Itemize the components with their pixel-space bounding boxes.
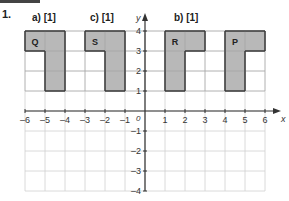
shape-label: P (232, 37, 238, 47)
y-axis-label: y (135, 13, 141, 23)
x-tick-label: –4 (60, 115, 70, 125)
y-tick-label: –1 (131, 126, 141, 136)
x-tick-label: –3 (80, 115, 90, 125)
x-tick-label: 6 (262, 115, 267, 125)
y-tick-label: –4 (131, 186, 141, 196)
y-tick-label: –3 (131, 166, 141, 176)
x-axis-label: x (280, 114, 286, 124)
x-tick-label: –6 (20, 115, 30, 125)
x-tick-label: –1 (120, 115, 130, 125)
shape-label: Q (31, 37, 38, 47)
y-tick-label: 1 (136, 86, 141, 96)
x-tick-label: –2 (100, 115, 110, 125)
y-tick-label: 3 (136, 46, 141, 56)
shape-label: S (92, 37, 98, 47)
x-axis-arrow-icon (273, 108, 281, 114)
coordinate-grid: QSRPxy0–6–5–4–3–2–11234564321–1–2–3–4 (0, 0, 289, 201)
y-tick-label: 4 (136, 26, 141, 36)
x-tick-label: 3 (202, 115, 207, 125)
y-tick-label: 2 (136, 66, 141, 76)
shape-label: R (172, 37, 179, 47)
y-axis-arrow-icon (142, 13, 148, 21)
x-tick-label: –5 (40, 115, 50, 125)
x-tick-label: 4 (222, 115, 227, 125)
y-tick-label: –2 (131, 146, 141, 156)
x-tick-label: 1 (162, 115, 167, 125)
x-tick-label: 5 (242, 115, 247, 125)
x-tick-label: 2 (182, 115, 187, 125)
origin-label: 0 (136, 114, 141, 123)
